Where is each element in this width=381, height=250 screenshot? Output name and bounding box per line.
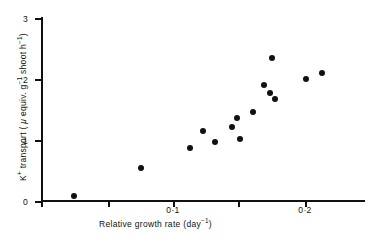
x-tick-mark [238,201,240,207]
data-point [200,128,206,134]
y-tick-mark [35,79,41,81]
data-point [267,90,273,96]
x-axis-title-exponent: −1 [201,217,209,224]
y-tick-mark [35,18,41,20]
data-point [237,136,243,142]
x-tick-label: 0·2 [298,205,312,215]
y-axis-title-exponent-2: −1 [16,36,23,44]
y-axis-title-end: ) [18,33,28,36]
data-point [303,76,309,82]
data-point [71,193,77,199]
y-tick-mark [35,201,41,203]
data-point [319,70,325,76]
data-point [138,165,144,171]
x-axis-title-suffix: ) [209,219,212,229]
y-axis-title-mid: transport ( [18,124,28,171]
y-axis-title-equiv: equiv. g [18,85,28,119]
y-axis-title-k-charge: + [16,171,23,175]
x-axis-title: Relative growth rate (day−1) [0,219,381,229]
data-point [234,115,240,121]
y-axis-title: K+ transport ( μ equiv. g−1 shoot h−1) [18,12,28,202]
data-point [269,55,275,61]
x-tick-mark [108,201,110,207]
data-point [272,96,278,102]
y-axis-title-k: K [18,175,28,181]
data-point [212,139,218,145]
data-point [261,82,267,88]
data-point [229,124,235,130]
y-axis-line [41,17,43,202]
x-axis-line [41,200,365,202]
scatter-plot-figure: 0·10·2 0123 Relative growth rate (day−1)… [0,0,381,250]
y-axis-title-shoot: shoot h [18,44,28,77]
data-point [250,109,256,115]
y-axis-title-mu: μ [18,119,28,124]
x-tick-mark [41,201,43,207]
y-tick-mark [35,140,41,142]
data-point [187,145,193,151]
x-axis-title-prefix: Relative growth rate (day [99,219,201,229]
y-axis-title-exponent-1: −1 [16,77,23,85]
x-tick-label: 0·1 [166,205,180,215]
